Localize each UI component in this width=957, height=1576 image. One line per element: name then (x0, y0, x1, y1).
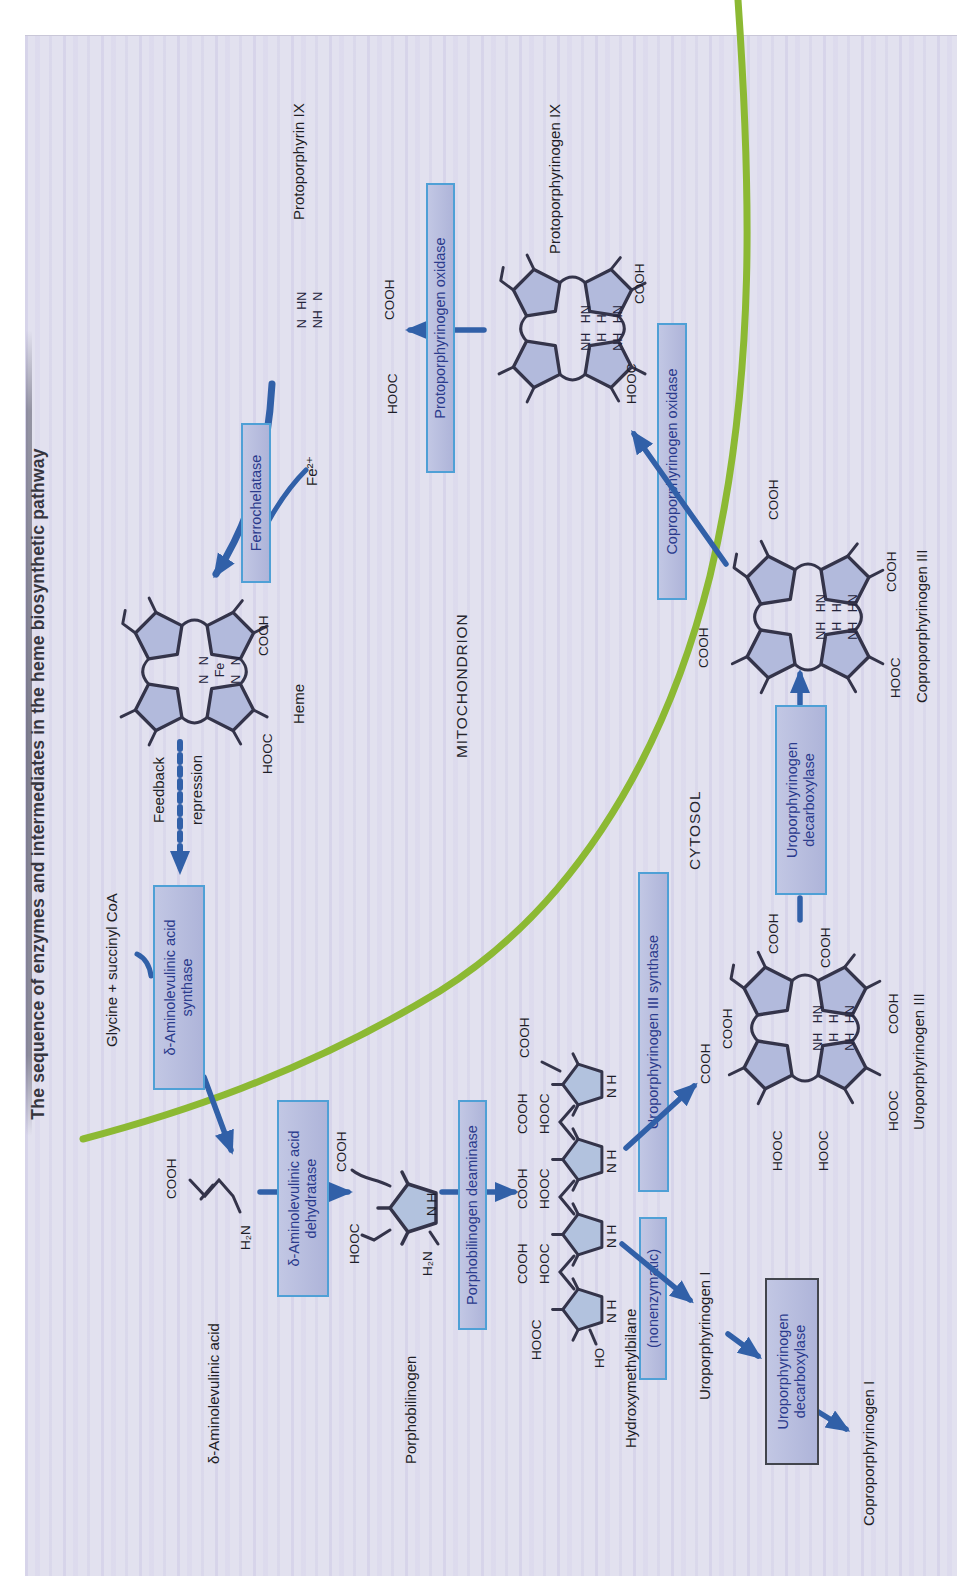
feedback-label-line2: repression (188, 730, 205, 850)
molecule-label-uro1: Uroporphyrinogen I (696, 1272, 713, 1400)
cooh-label: COOH (698, 1044, 713, 1085)
enzyme-label-line: Uroporphyrinogen (775, 1313, 792, 1429)
molecule-label-uro3: Uroporphyrinogen III (910, 993, 927, 1130)
h2n-label: H₂N (420, 1251, 435, 1276)
enzyme-box-uro-decarboxylase-i: Uroporphyrinogen decarboxylase (765, 1278, 819, 1465)
enzyme-label-line: decarboxylase (792, 1325, 809, 1419)
nh-label: N H (604, 1150, 619, 1173)
cooh-label: COOH (720, 1009, 735, 1050)
cytosol-label: CYTOSOL (686, 791, 704, 870)
enzyme-label-line: dehydratase (303, 1159, 320, 1239)
molecule-label-protogen9: Protoporphyrinogen IX (546, 104, 563, 254)
proto9-ring-center: N HNNH N (264, 272, 358, 348)
enzyme-label-line: δ-Aminolevulinic acid (162, 919, 179, 1055)
cooh-label: COOH (517, 1018, 532, 1059)
nh-label: N H (604, 1225, 619, 1248)
hooc-label: HOOC (816, 1131, 831, 1172)
enzyme-label-line: Protoporphyrinogen oxidase (432, 237, 449, 418)
cooh-label: COOH (515, 1094, 530, 1135)
hooc-label: HOOC (537, 1169, 552, 1210)
nh-label: N H (604, 1300, 619, 1323)
enzyme-label-line: Uroporphyrinogen (784, 742, 801, 858)
cooh-label: COOH (515, 1169, 530, 1210)
enzyme-box-ala-synthase: δ-Aminolevulinic acid synthase (153, 885, 205, 1090)
enzyme-box-ala-dehydratase: δ-Aminolevulinic acid dehydratase (277, 1100, 329, 1297)
cooh-label: COOH (256, 616, 271, 657)
cooh-label: COOH (382, 280, 397, 321)
enzyme-label-line: Coproporphyrinogen oxidase (664, 368, 681, 554)
nh-label: N H (604, 1075, 619, 1098)
enzyme-label-line: synthase (179, 958, 196, 1016)
molecule-label-copro3: Coproporphyrinogen III (913, 550, 930, 703)
cooh-label: COOH (515, 1244, 530, 1285)
figure-title: The sequence of enzymes and intermediate… (28, 402, 49, 1166)
pathway-diagram: δ-Aminolevulinic acid synthase δ-Aminole… (0, 0, 957, 1576)
hooc-label: HOOC (886, 1091, 901, 1132)
cooh-label: COOH (886, 994, 901, 1035)
enzyme-label-line: Ferrochelatase (248, 455, 265, 552)
cooh-label: COOH (696, 628, 711, 669)
hooc-label: HOOC (537, 1094, 552, 1135)
molecule-label-pbg: Porphobilinogen (402, 1356, 419, 1464)
molecule-label-heme: Heme (290, 684, 307, 724)
enzyme-box-copro-oxidase: Coproporphyrinogen oxidase (657, 323, 687, 600)
molecule-label-hmb: Hydroxymethylbilane (622, 1309, 639, 1448)
hooc-label: HOOC (529, 1320, 544, 1361)
hooc-label: HOOC (347, 1224, 362, 1265)
molecule-label-ala: δ-Aminolevulinic acid (205, 1323, 222, 1464)
cooh-label: COOH (766, 914, 781, 955)
cooh-label: COOH (818, 928, 833, 969)
cooh-label: COOH (164, 1159, 179, 1200)
molecule-label-proto9: Protoporphyrin IX (290, 103, 307, 220)
cooh-label: COOH (632, 264, 647, 305)
cooh-label: COOH (884, 552, 899, 593)
hooc-label: HOOC (537, 1244, 552, 1285)
enzyme-box-ferrochelatase: Ferrochelatase (241, 423, 271, 583)
copro3-ring-center: NH HNH HNH HN (783, 579, 892, 655)
enzyme-label-line: (nonenzymatic) (645, 1249, 662, 1348)
mitochondrion-label: MITOCHONDRION (453, 614, 471, 758)
glycine-succinyl-coa-label: Glycine + succinyl CoA (103, 893, 120, 1047)
ferrous-iron-label: Fe²⁺ (303, 456, 321, 487)
enzyme-box-uro-decarboxylase-iii: Uroporphyrinogen decarboxylase (775, 705, 827, 895)
feedback-label-line1: Feedback (150, 730, 167, 850)
molecule-label-copro1: Coproporphyrinogen I (860, 1381, 877, 1526)
hooc-label: HOOC (770, 1131, 785, 1172)
scanned-textbook-page: δ-Aminolevulinic acid synthase δ-Aminole… (0, 0, 957, 1576)
hooc-label: HOOC (888, 658, 903, 699)
enzyme-box-proto-oxidase: Protoporphyrinogen oxidase (426, 183, 455, 473)
enzyme-label-line: decarboxylase (801, 753, 818, 847)
h2n-label: H₂N (238, 1225, 253, 1250)
nh-label: N H (424, 1193, 439, 1216)
enzyme-label-line: Porphobilinogen deaminase (464, 1125, 481, 1305)
enzyme-box-pbg-deaminase: Porphobilinogen deaminase (458, 1100, 487, 1330)
enzyme-label-line: δ-Aminolevulinic acid (286, 1130, 303, 1266)
cooh-label: COOH (766, 480, 781, 521)
enzyme-box-uro3-synthase: Uroporphyrinogen III synthase (638, 872, 669, 1192)
uro3-ring-center: NH HNH HNH HN (780, 990, 889, 1066)
enzyme-box-nonenzymatic: (nonenzymatic) (639, 1217, 667, 1380)
hooc-label: HOOC (385, 374, 400, 415)
hooc-label: HOOC (624, 364, 639, 405)
enzyme-label-line: Uroporphyrinogen III synthase (645, 935, 662, 1129)
ho-label: HO (592, 1348, 607, 1368)
cooh-label: COOH (334, 1132, 349, 1173)
hooc-label: HOOC (260, 734, 275, 775)
